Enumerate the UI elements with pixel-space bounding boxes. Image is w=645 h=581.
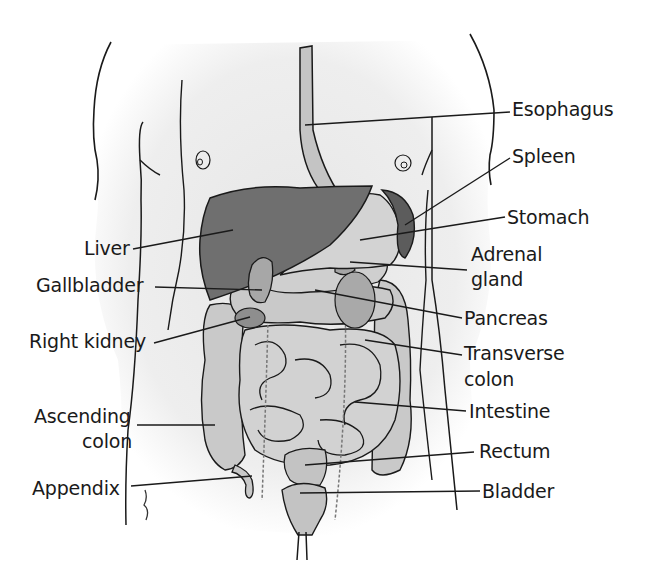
anatomy-diagram: Liver Gallbladder Right kidney Ascending… <box>0 0 645 581</box>
label-rectum: Rectum <box>479 440 550 462</box>
label-spleen: Spleen <box>512 145 576 167</box>
label-intestine: Intestine <box>469 400 550 422</box>
label-ascending-colon-line2: colon <box>82 430 132 452</box>
label-stomach: Stomach <box>507 206 589 228</box>
right-kidney <box>235 308 265 328</box>
label-liver: Liver <box>84 237 130 259</box>
label-esophagus: Esophagus <box>512 98 613 120</box>
label-adrenal-gland-line1: Adrenal <box>471 243 542 265</box>
rectum <box>284 448 326 485</box>
label-transverse-colon-line2: colon <box>464 368 514 390</box>
label-appendix: Appendix <box>32 477 120 499</box>
label-bladder: Bladder <box>482 480 554 502</box>
label-gallbladder: Gallbladder <box>36 274 143 296</box>
label-right-kidney: Right kidney <box>29 330 146 352</box>
label-transverse-colon-line1: Transverse <box>464 342 565 364</box>
label-ascending-colon-line1: Ascending <box>34 405 131 427</box>
urethra <box>297 532 307 560</box>
label-pancreas: Pancreas <box>464 307 548 329</box>
label-adrenal-gland-line2: gland <box>471 268 523 290</box>
